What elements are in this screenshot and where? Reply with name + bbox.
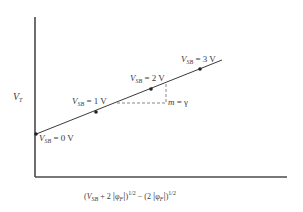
exponent-half-2: 1/2 [168, 190, 176, 196]
point-label-0v: VSB = 0 V [39, 134, 74, 144]
x-axis-label: (VSB + 2 |φF|)1/2 − (2 |φF|)1/2 [84, 190, 176, 202]
voltage-value: = 2 V [142, 73, 165, 83]
plus-two: + 2 [98, 192, 113, 201]
data-point-1v [94, 110, 98, 114]
data-point-2v [149, 87, 153, 91]
point-label-3v: VSB = 3 V [181, 55, 216, 65]
abs-bar-right: | [123, 189, 125, 201]
point-label-2v: VSB = 2 V [130, 74, 165, 84]
data-point-0v [34, 132, 38, 136]
minus-two: − (2 [136, 192, 153, 201]
data-point-3v [198, 67, 202, 71]
vt-line [35, 60, 222, 135]
slope-equals-gamma: = γ [175, 97, 189, 107]
y-axis-label: VT [13, 92, 22, 103]
exponent-half: 1/2 [128, 190, 136, 196]
voltage-value: = 3 V [193, 54, 216, 64]
voltage-value: = 1 V [84, 96, 107, 106]
voltage-value: = 0 V [51, 133, 74, 143]
point-label-1v: VSB = 1 V [72, 97, 107, 107]
threshold-voltage-diagram: VT VSB = 0 V VSB = 1 V VSB = 2 V VSB = 3… [0, 0, 303, 212]
y-label-sub: T [19, 97, 22, 103]
diagram-graphics [0, 0, 303, 212]
abs-bar-right-2: | [163, 189, 165, 201]
slope-label: m = γ [168, 98, 188, 107]
